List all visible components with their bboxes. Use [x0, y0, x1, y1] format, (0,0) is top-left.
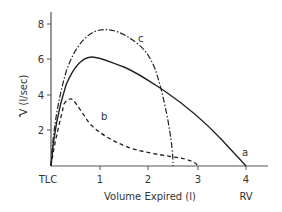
- curve-a-label: a: [242, 147, 248, 158]
- y-tick-label: 8: [38, 19, 44, 30]
- y-axis-title: V (l/sec): [18, 74, 29, 115]
- curve-c: [51, 30, 173, 166]
- v-dot-accent: [19, 115, 21, 117]
- x-tick-label: 3: [195, 174, 201, 185]
- x-ticks: [100, 166, 246, 170]
- flow-volume-chart: 2 4 6 8 TLC 1 2 3 4 Volume Expired (l) R…: [0, 0, 282, 212]
- x-tick-label: 1: [97, 174, 103, 185]
- x-tick-label: TLC: [38, 174, 58, 185]
- x-tick-label: 2: [145, 174, 151, 185]
- y-tick-label: 2: [38, 125, 44, 136]
- y-tick-label: 4: [38, 90, 44, 101]
- x-axis-title: Volume Expired (l): [104, 191, 196, 202]
- x-tick-label: 4: [243, 174, 249, 185]
- y-tick-label: 6: [38, 54, 44, 65]
- curve-c-label: c: [138, 33, 144, 44]
- curve-b: [51, 99, 198, 166]
- curve-a: [51, 57, 246, 166]
- curve-b-label: b: [101, 111, 107, 122]
- rv-label: RV: [239, 191, 252, 202]
